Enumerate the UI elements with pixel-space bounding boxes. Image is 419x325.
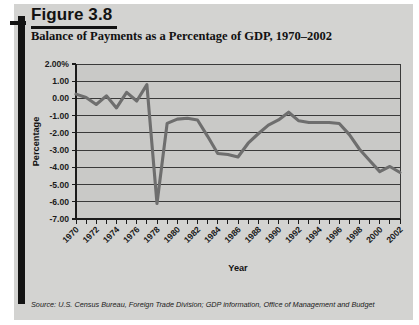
y-axis-tick-label: 1.00 xyxy=(52,76,69,86)
y-axis-tick-label: -2.00 xyxy=(49,128,69,138)
y-axis-title: Percentage xyxy=(31,117,41,167)
x-axis-tick-label: 1986 xyxy=(222,224,243,245)
x-axis-tick-label: 1998 xyxy=(344,224,365,245)
x-axis-tick-label: 1992 xyxy=(283,224,304,245)
y-axis-tick-label: -6.00 xyxy=(49,197,69,207)
left-rule-decoration xyxy=(18,16,25,304)
x-axis-tick-label: 1972 xyxy=(81,224,102,245)
x-axis-tick-label: 2000 xyxy=(364,224,385,245)
y-axis-tick-label: 0.00 xyxy=(52,93,69,103)
chart-plot: 2.00%1.000.00-1.00-2.00-3.00-4.00-5.00-6… xyxy=(28,50,408,275)
y-axis-tick-label: 2.00% xyxy=(45,59,70,69)
x-axis-tick-label: 1976 xyxy=(121,224,142,245)
x-axis-tick-label: 1982 xyxy=(182,224,203,245)
x-axis-title: Year xyxy=(228,263,248,273)
x-axis-tick-label: 1994 xyxy=(303,224,324,245)
y-axis-tick-label: -4.00 xyxy=(49,162,69,172)
y-axis-tick-label: -5.00 xyxy=(49,180,69,190)
y-axis-tick-label: -7.00 xyxy=(49,214,69,224)
y-axis-tick-label: -3.00 xyxy=(49,145,69,155)
x-axis-tick-label: 1984 xyxy=(202,224,223,245)
x-axis-tick-label: 1978 xyxy=(141,224,162,245)
x-axis-tick-label: 1970 xyxy=(60,224,81,245)
figure-number: Figure 3.8 xyxy=(31,5,112,25)
x-axis-tick-label: 1980 xyxy=(162,224,183,245)
x-axis-tick-label: 1996 xyxy=(324,224,345,245)
x-axis-tick-label: 1990 xyxy=(263,224,284,245)
plot-background xyxy=(76,64,400,219)
source-note: Source: U.S. Census Bureau, Foreign Trad… xyxy=(31,300,375,309)
line-chart-svg: 2.00%1.000.00-1.00-2.00-3.00-4.00-5.00-6… xyxy=(28,50,408,275)
x-axis-tick-label: 1974 xyxy=(101,224,122,245)
x-axis-tick-label: 1988 xyxy=(243,224,264,245)
figure-title: Balance of Payments as a Percentage of G… xyxy=(31,29,332,44)
figure-panel: Figure 3.8 Balance of Payments as a Perc… xyxy=(0,0,419,325)
y-axis-tick-label: -1.00 xyxy=(49,111,69,121)
x-axis-tick-label: 2002 xyxy=(384,224,405,245)
